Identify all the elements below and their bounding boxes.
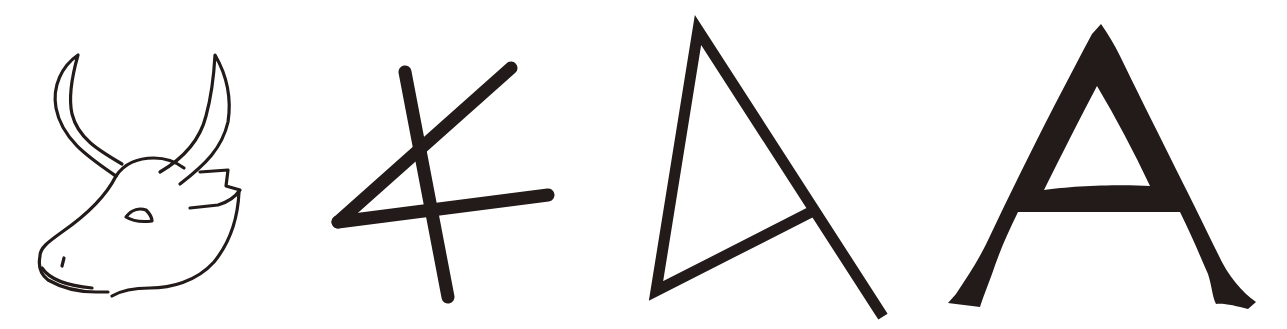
archaic-alpha-icon	[656, 30, 880, 312]
modern-a-icon	[948, 24, 1256, 309]
letter-evolution-diagram: Evolution of the letter A	[0, 0, 1287, 329]
ox-head-icon	[39, 55, 240, 296]
early-aleph-icon	[338, 68, 548, 297]
